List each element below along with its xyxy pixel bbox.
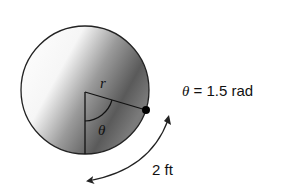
angle-label: θ bbox=[98, 122, 106, 138]
radius-label: r bbox=[100, 75, 106, 91]
angle-equation: θ = 1.5 rad bbox=[182, 82, 253, 99]
angle-equation-value: = 1.5 rad bbox=[189, 82, 253, 99]
arrowhead-top-icon bbox=[164, 115, 171, 125]
point-on-circle bbox=[142, 106, 150, 114]
radian-diagram: r θ θ = 1.5 rad 2 ft bbox=[0, 0, 289, 194]
arc-length-label: 2 ft bbox=[152, 161, 174, 178]
